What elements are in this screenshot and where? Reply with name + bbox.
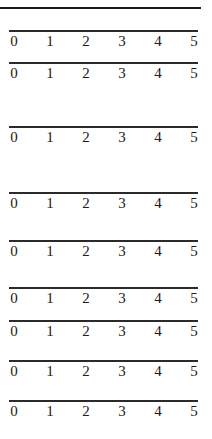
tick-label: 4 — [151, 404, 165, 419]
tick-label: 4 — [151, 130, 165, 145]
tick-label: 5 — [187, 244, 201, 259]
tick-label: 1 — [43, 404, 57, 419]
tick-label: 3 — [115, 196, 129, 211]
tick-label: 2 — [79, 196, 93, 211]
tick-label: 2 — [79, 34, 93, 49]
tick-label: 5 — [187, 324, 201, 339]
tick-label: 3 — [115, 244, 129, 259]
tick-label: 0 — [7, 364, 21, 379]
tick-label: 0 — [7, 34, 21, 49]
axis-line — [9, 287, 198, 289]
tick-label: 2 — [79, 291, 93, 306]
tick-label: 0 — [7, 324, 21, 339]
tick-label: 5 — [187, 404, 201, 419]
number-line-1: 012345 — [0, 30, 212, 52]
number-line-3: 012345 — [0, 126, 212, 148]
tick-label: 3 — [115, 66, 129, 81]
tick-label: 4 — [151, 291, 165, 306]
tick-label: 2 — [79, 404, 93, 419]
axis-line — [9, 240, 198, 242]
tick-label: 1 — [43, 324, 57, 339]
tick-label: 0 — [7, 196, 21, 211]
tick-label: 4 — [151, 34, 165, 49]
tick-label: 5 — [187, 34, 201, 49]
tick-label: 3 — [115, 130, 129, 145]
tick-label: 5 — [187, 66, 201, 81]
tick-label: 2 — [79, 364, 93, 379]
tick-label: 5 — [187, 130, 201, 145]
tick-label: 2 — [79, 130, 93, 145]
number-line-8: 012345 — [0, 360, 212, 382]
axis-line — [9, 400, 198, 402]
tick-label: 5 — [187, 291, 201, 306]
top-rule — [0, 7, 201, 9]
tick-label: 3 — [115, 364, 129, 379]
axis-line — [9, 30, 198, 32]
tick-label: 3 — [115, 291, 129, 306]
tick-label: 2 — [79, 66, 93, 81]
tick-label: 0 — [7, 244, 21, 259]
axis-line — [9, 62, 198, 64]
tick-label: 0 — [7, 66, 21, 81]
tick-label: 1 — [43, 196, 57, 211]
number-line-6: 012345 — [0, 287, 212, 309]
tick-label: 4 — [151, 196, 165, 211]
axis-line — [9, 320, 198, 322]
number-line-4: 012345 — [0, 192, 212, 214]
tick-label: 2 — [79, 324, 93, 339]
tick-label: 4 — [151, 324, 165, 339]
tick-label: 1 — [43, 244, 57, 259]
tick-label: 4 — [151, 66, 165, 81]
tick-label: 1 — [43, 130, 57, 145]
tick-label: 5 — [187, 364, 201, 379]
tick-label: 4 — [151, 244, 165, 259]
tick-label: 1 — [43, 291, 57, 306]
tick-label: 2 — [79, 244, 93, 259]
tick-label: 0 — [7, 291, 21, 306]
tick-label: 3 — [115, 404, 129, 419]
tick-label: 1 — [43, 34, 57, 49]
number-line-9: 012345 — [0, 400, 212, 422]
axis-line — [9, 126, 198, 128]
axis-line — [9, 192, 198, 194]
axis-line — [9, 360, 198, 362]
number-line-5: 012345 — [0, 240, 212, 262]
tick-label: 1 — [43, 364, 57, 379]
number-line-7: 012345 — [0, 320, 212, 342]
tick-label: 5 — [187, 196, 201, 211]
tick-label: 4 — [151, 364, 165, 379]
tick-label: 3 — [115, 324, 129, 339]
tick-label: 0 — [7, 404, 21, 419]
tick-label: 3 — [115, 34, 129, 49]
tick-label: 0 — [7, 130, 21, 145]
tick-label: 1 — [43, 66, 57, 81]
number-line-2: 012345 — [0, 62, 212, 84]
